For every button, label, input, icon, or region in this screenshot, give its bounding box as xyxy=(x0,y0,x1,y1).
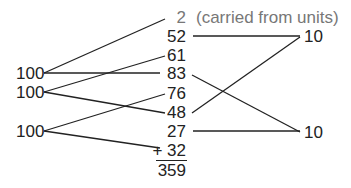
last-addend: + 32 xyxy=(146,142,186,159)
column-value-27: 27 xyxy=(146,123,186,140)
column-value-52: 52 xyxy=(146,28,186,45)
carry-note: (carried from units) xyxy=(196,9,339,26)
column-value-61: 61 xyxy=(146,47,186,64)
column-value-48: 48 xyxy=(146,104,186,121)
hundred-label-3: 100 xyxy=(16,123,44,140)
column-value-76: 76 xyxy=(146,85,186,102)
carry-digit: 2 xyxy=(146,9,186,26)
sum-total: 359 xyxy=(146,162,186,179)
hundred-label-2: 100 xyxy=(16,84,44,101)
ten-label-1: 10 xyxy=(304,28,323,45)
ten-label-2: 10 xyxy=(304,124,323,141)
column-value-83: 83 xyxy=(146,65,186,82)
hundred-label-1: 100 xyxy=(16,65,44,82)
